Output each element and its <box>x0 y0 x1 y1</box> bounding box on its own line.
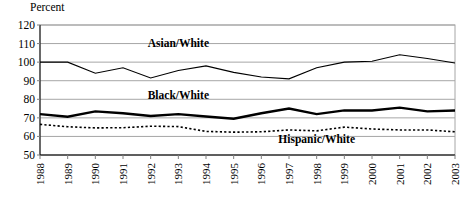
series-label: Asian/White <box>148 37 209 49</box>
x-tick-label: 1996 <box>255 163 267 186</box>
series-line-hispanic-white <box>40 124 455 132</box>
plot-frame <box>40 25 455 155</box>
x-tick-label: 2002 <box>421 163 433 185</box>
series-label: Black/White <box>148 89 209 101</box>
y-tick-label: 80 <box>24 93 36 105</box>
y-tick-label: 60 <box>24 130 36 142</box>
x-tick-labels: 1988198919901991199219931994199519961997… <box>34 163 461 186</box>
x-tick-label: 1989 <box>62 163 74 186</box>
y-tick-label: 120 <box>18 19 36 31</box>
y-tick-label: 50 <box>24 149 36 161</box>
x-tick-label: 2000 <box>366 163 378 186</box>
series-label: Hispanic/White <box>278 133 355 146</box>
x-tick-label: 2001 <box>394 163 406 185</box>
x-tick-label: 1992 <box>145 163 157 185</box>
y-tick-label: 70 <box>24 112 36 124</box>
x-tick-label: 1988 <box>34 163 46 186</box>
x-tick-marks <box>40 155 455 159</box>
series-line-asian-white <box>40 55 455 79</box>
x-tick-label: 1999 <box>338 163 350 186</box>
x-tick-label: 1998 <box>311 163 323 186</box>
x-tick-label: 1994 <box>200 163 212 186</box>
x-tick-label: 1991 <box>117 163 129 185</box>
x-tick-label: 1993 <box>172 163 184 186</box>
y-tick-label: 100 <box>18 56 36 68</box>
gridlines <box>40 25 455 155</box>
y-tick-label: 90 <box>24 75 36 87</box>
x-tick-label: 1995 <box>228 163 240 186</box>
y-tick-label: 110 <box>18 38 35 50</box>
series-line-black-white <box>40 108 455 119</box>
chart-figure: Percent 5060708090100110120 198819891990… <box>0 0 470 201</box>
line-chart-canvas: 5060708090100110120 19881989199019911992… <box>0 0 470 201</box>
x-tick-label: 1990 <box>89 163 101 186</box>
y-tick-labels: 5060708090100110120 <box>18 19 40 161</box>
series-annotations: Asian/WhiteBlack/WhiteHispanic/White <box>148 37 355 146</box>
x-tick-label: 2003 <box>449 163 461 186</box>
x-tick-label: 1997 <box>283 163 295 186</box>
